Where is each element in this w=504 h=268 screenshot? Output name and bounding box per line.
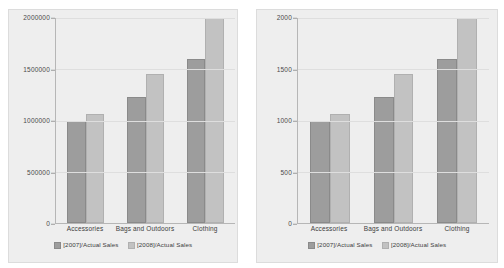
legend-item[interactable]: [2007]/Actual Sales xyxy=(54,242,119,249)
legend-label: [2007]/Actual Sales xyxy=(317,242,372,248)
gridline xyxy=(298,121,489,122)
legend-swatch-icon xyxy=(128,242,135,249)
legend-left: [2007]/Actual Sales[2008]/Actual Sales xyxy=(9,242,237,249)
bar[interactable] xyxy=(374,97,394,223)
bar[interactable] xyxy=(127,97,145,223)
gridline xyxy=(56,121,235,122)
y-axis-right: 2000150010005000 xyxy=(257,18,297,224)
legend-right: [2007]/Actual Sales[2008]/Actual Sales xyxy=(257,242,497,249)
y-tick-label: 1000 xyxy=(277,118,297,125)
y-tick-label: 2000 xyxy=(277,15,297,22)
gridline xyxy=(298,69,489,70)
gridline xyxy=(56,18,235,19)
gridline xyxy=(56,69,235,70)
bar[interactable] xyxy=(146,74,164,223)
plot-wrapper-left: 2000000150000010000005000000 xyxy=(9,18,235,224)
y-tick-label: 0 xyxy=(288,221,297,228)
bar[interactable] xyxy=(437,59,457,223)
x-axis-label: Accessories xyxy=(55,226,115,238)
x-axis-labels-left: AccessoriesBags and OutdoorsClothing xyxy=(55,226,235,238)
plot-area-left xyxy=(55,18,235,224)
y-tick-label: 1500 xyxy=(277,66,297,73)
x-axis-label: Accessories xyxy=(297,226,361,238)
legend-label: [2007]/Actual Sales xyxy=(63,242,118,248)
x-axis-label: Bags and Outdoors xyxy=(115,226,175,238)
y-tick-label: 2000000 xyxy=(23,15,55,22)
chart-page: 2000000150000010000005000000 Accessories… xyxy=(0,0,504,268)
gridline xyxy=(298,18,489,19)
legend-item[interactable]: [2007]/Actual Sales xyxy=(308,242,373,249)
x-axis-label: Bags and Outdoors xyxy=(361,226,425,238)
bar[interactable] xyxy=(330,114,350,223)
legend-swatch-icon xyxy=(382,242,389,249)
y-axis-left: 2000000150000010000005000000 xyxy=(9,18,55,224)
legend-swatch-icon xyxy=(308,242,315,249)
chart-left: 2000000150000010000005000000 Accessories… xyxy=(9,10,237,262)
chart-right: 2000150010005000 AccessoriesBags and Out… xyxy=(257,10,497,262)
y-tick-label: 500000 xyxy=(27,169,55,176)
plot-area-right xyxy=(297,18,489,224)
chart-panel-left: 2000000150000010000005000000 Accessories… xyxy=(8,9,238,263)
legend-swatch-icon xyxy=(54,242,61,249)
chart-panel-right: 2000150010005000 AccessoriesBags and Out… xyxy=(256,9,498,263)
x-axis-labels-right: AccessoriesBags and OutdoorsClothing xyxy=(297,226,489,238)
y-tick-label: 1500000 xyxy=(23,66,55,73)
y-tick-label: 0 xyxy=(46,221,55,228)
plot-wrapper-right: 2000150010005000 xyxy=(257,18,495,224)
gridline xyxy=(56,172,235,173)
legend-label: [2008]/Actual Sales xyxy=(137,242,192,248)
y-tick-label: 500 xyxy=(281,169,297,176)
x-axis-label: Clothing xyxy=(425,226,489,238)
legend-item[interactable]: [2008]/Actual Sales xyxy=(128,242,193,249)
x-axis-label: Clothing xyxy=(175,226,235,238)
bar[interactable] xyxy=(394,74,414,223)
bar[interactable] xyxy=(187,59,205,223)
legend-label: [2008]/Actual Sales xyxy=(391,242,446,248)
bar[interactable] xyxy=(86,114,104,223)
gridline xyxy=(298,172,489,173)
y-tick-label: 1000000 xyxy=(23,118,55,125)
legend-item[interactable]: [2008]/Actual Sales xyxy=(382,242,447,249)
